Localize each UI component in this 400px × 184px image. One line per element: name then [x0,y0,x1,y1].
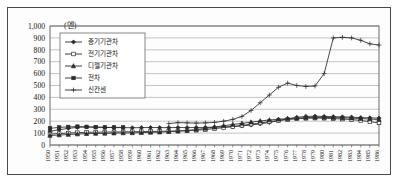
x-tick-label: 1977 [292,150,298,162]
x-tick-label: 1981 [328,150,334,162]
data-point [303,84,308,89]
data-point [112,126,115,129]
y-tick-label: 700 [34,57,46,66]
y-tick-label: 600 [34,69,46,78]
x-tick-label: 1961 [146,150,152,162]
x-tick-label: 1976 [283,150,289,162]
data-point [76,125,79,128]
data-point [130,126,134,130]
data-point [240,114,245,119]
data-point [166,121,171,126]
y-tick-label: 300 [34,105,46,114]
x-tick-label: 1950 [45,150,51,162]
y-tick-label: 800 [34,46,46,55]
x-tick-label: 1956 [100,150,106,162]
x-tick-label: 1969 [219,150,225,162]
x-tick-label: 1962 [155,150,161,162]
x-tick-label: 1968 [210,150,216,162]
data-point [176,120,181,125]
x-tick-label: 1967 [200,150,206,162]
x-tick-label: 1984 [356,150,362,162]
data-point [349,36,354,41]
x-tick-label: 1960 [136,150,142,162]
x-tick-label: 1952 [63,150,69,162]
y-tick-label: 1,000 [28,22,45,31]
y-tick-label: 400 [34,93,46,102]
legend-label: 전차 [88,73,100,82]
legend-label: 증기기관차 [88,37,118,46]
data-point [72,76,75,79]
y-tick-label: 500 [34,81,46,90]
x-tick-label: 1972 [246,150,252,162]
data-point [72,52,76,56]
series-line [169,37,379,123]
data-point [103,126,106,129]
x-tick-label: 1965 [182,150,188,162]
data-point [367,41,372,46]
legend-label: 전기기관차 [88,49,118,58]
data-point [221,119,226,124]
y-tick-label: 0 [41,141,45,150]
x-tick-label: 1986 [374,150,380,162]
figure-frame: (엔) 01002003004005006007008009001,000195… [7,7,391,175]
legend-label: 디젤기관차 [88,61,118,70]
x-tick-label: 1979 [310,150,316,162]
data-point [358,38,363,43]
x-tick-label: 1955 [91,150,97,162]
x-tick-label: 1958 [118,150,124,162]
legend-marker [72,76,75,79]
chart-legend: 증기기관차전기기관차디젤기관차전차신칸센 [60,33,145,98]
legend-marker [72,52,76,56]
x-tick-label: 1954 [82,150,88,162]
data-point [212,120,217,125]
x-tick-label: 1953 [72,150,78,162]
x-tick-label: 1964 [173,150,179,162]
data-point [85,125,88,128]
x-tick-label: 1957 [109,150,115,162]
x-tick-label: 1963 [164,150,170,162]
x-tick-label: 1971 [237,150,243,162]
x-tick-label: 1974 [264,150,270,162]
line-chart: 01002003004005006007008009001,0001950195… [8,8,392,176]
legend-label: 신칸센 [88,85,106,93]
series-5 [166,35,381,126]
data-point [148,125,152,129]
data-point [294,83,299,88]
x-tick-label: 1959 [127,150,133,162]
data-point [121,126,124,129]
data-point [67,125,70,128]
y-tick-label: 900 [34,34,46,43]
data-point [285,81,290,86]
x-tick-label: 1980 [319,150,325,162]
data-point [57,126,60,129]
x-tick-label: 1975 [273,150,279,162]
data-point [94,125,97,128]
x-tick-label: 1982 [337,150,343,162]
x-tick-label: 1951 [54,150,60,162]
data-point [340,35,345,40]
x-tick-label: 1985 [365,150,371,162]
x-tick-label: 1973 [255,150,261,162]
x-tick-label: 1970 [228,150,234,162]
data-point [377,43,382,48]
x-tick-label: 1966 [191,150,197,162]
x-tick-label: 1983 [347,150,353,162]
y-tick-label: 100 [34,129,46,138]
data-point [331,36,336,41]
data-point [139,126,143,130]
y-tick-label: 200 [34,117,46,126]
data-point [48,127,51,130]
x-tick-label: 1978 [301,150,307,162]
